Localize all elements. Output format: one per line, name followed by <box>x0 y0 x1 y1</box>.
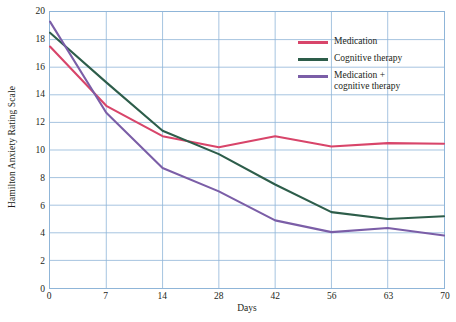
x-axis-tick-label: 42 <box>271 291 281 301</box>
x-axis-title: Days <box>49 303 445 313</box>
y-axis-tick-label: 8 <box>40 173 45 183</box>
legend-color-swatch <box>298 58 328 61</box>
legend-item[interactable]: Cognitive therapy <box>298 53 448 64</box>
y-axis-tick-label: 12 <box>36 117 46 127</box>
y-axis-tick-label: 0 <box>40 284 45 294</box>
legend-item-label: Cognitive therapy <box>334 53 402 64</box>
y-axis-tick-label: 20 <box>36 6 46 16</box>
y-axis-tick-label: 18 <box>36 34 46 44</box>
y-axis-tick-label: 2 <box>40 256 45 266</box>
y-axis-tick-label: 14 <box>36 89 46 99</box>
legend-color-swatch <box>298 75 328 78</box>
x-axis-tick-label: 28 <box>214 291 224 301</box>
legend-item-label: Medication + cognitive therapy <box>334 70 400 92</box>
y-axis-tick-labels: 20181614121086420 <box>24 11 48 289</box>
x-axis-tick-label: 63 <box>384 291 394 301</box>
y-axis-tick-label: 16 <box>36 62 46 72</box>
x-axis-tick-label: 70 <box>440 291 450 301</box>
y-axis-tick-label: 6 <box>40 201 45 211</box>
legend-item[interactable]: Medication + cognitive therapy <box>298 70 448 92</box>
x-axis-tick-label: 56 <box>327 291 337 301</box>
legend-item[interactable]: Medication <box>298 36 448 47</box>
line-chart-figure: Hamilton Anxiety Rating Scale 2018161412… <box>0 0 456 322</box>
legend-color-swatch <box>298 41 328 44</box>
y-axis-title: Hamilton Anxiety Rating Scale <box>0 0 24 294</box>
y-axis-title-text: Hamilton Anxiety Rating Scale <box>7 86 17 208</box>
y-axis-tick-label: 4 <box>40 228 45 238</box>
x-axis-tick-label: 14 <box>157 291 167 301</box>
x-axis-tick-label: 7 <box>103 291 108 301</box>
y-axis-tick-label: 10 <box>36 145 46 155</box>
x-axis-tick-label: 0 <box>47 291 52 301</box>
legend: MedicationCognitive therapyMedication + … <box>298 36 448 98</box>
legend-item-label: Medication <box>334 36 377 47</box>
